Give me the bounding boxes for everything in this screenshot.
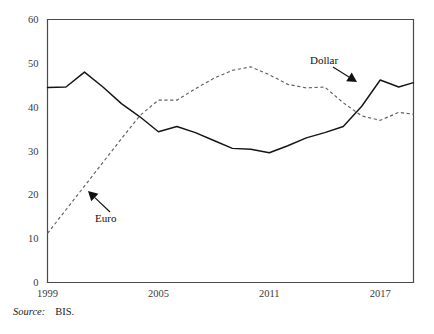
annotation-arrow-head [346,73,357,82]
series-line-euro [48,67,414,234]
y-axis-tick-labels: 0102030405060 [28,14,39,288]
plot-frame [48,20,414,284]
y-tick-label: 60 [28,14,39,25]
series-line-dollar [48,72,414,153]
x-tick-label: 2017 [370,288,391,299]
data-series-group [48,67,414,234]
series-label-dollar: Dollar [310,54,338,66]
y-tick-label: 10 [28,233,39,244]
y-tick-label: 20 [28,189,39,200]
series-annotations: DollarEuro [88,54,357,224]
source-label: Source: [13,306,45,317]
line-chart: 0102030405060 1999200520112017 DollarEur… [0,0,434,334]
x-tick-label: 1999 [37,288,58,299]
source-value: BIS. [55,306,74,317]
series-label-euro: Euro [95,212,117,224]
y-tick-label: 30 [28,146,39,157]
chart-figure: 0102030405060 1999200520112017 DollarEur… [0,0,434,334]
y-tick-label: 40 [28,102,39,113]
y-tick-label: 0 [33,277,38,288]
annotation-leader-line [95,198,110,212]
x-tick-label: 2011 [259,288,280,299]
y-tick-label: 50 [28,58,39,69]
x-tick-label: 2005 [148,288,169,299]
x-axis-tick-labels: 1999200520112017 [37,288,391,299]
source-note: Source:BIS. [13,306,74,317]
annotation-leader-line [333,67,349,77]
